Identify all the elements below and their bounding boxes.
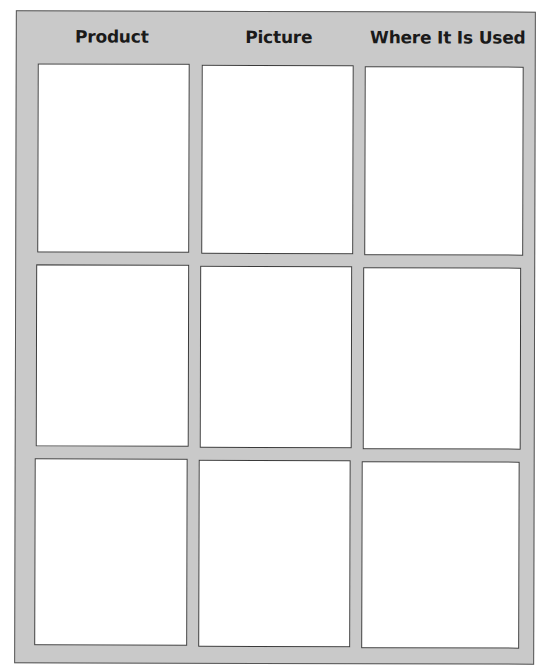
column-header-product: Product: [75, 26, 149, 46]
cell-row3-picture[interactable]: [198, 460, 350, 647]
column-header-where-used: Where It Is Used: [370, 27, 525, 47]
worksheet-frame: Product Picture Where It Is Used: [14, 10, 536, 664]
cell-row2-picture[interactable]: [200, 266, 352, 448]
cell-row1-where-used[interactable]: [364, 66, 523, 255]
column-header-picture: Picture: [245, 27, 312, 47]
cell-row3-product[interactable]: [34, 458, 187, 645]
cell-row1-product[interactable]: [37, 63, 189, 252]
cell-row2-product[interactable]: [36, 264, 189, 446]
cell-row3-where-used[interactable]: [361, 461, 519, 648]
cell-row1-picture[interactable]: [201, 65, 353, 254]
cell-row2-where-used[interactable]: [363, 267, 521, 449]
table-header: Product Picture Where It Is Used: [17, 11, 535, 64]
